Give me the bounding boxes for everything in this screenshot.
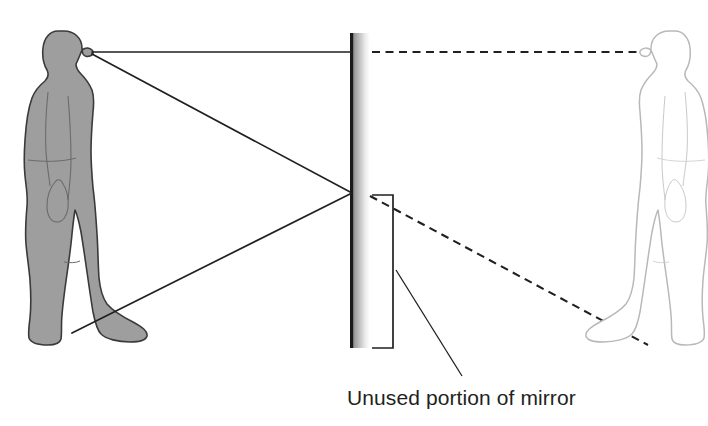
ray-foot-to-mirror-mid (72, 193, 352, 333)
optics-ray-diagram: Unused portion of mirror (0, 0, 708, 426)
mirror-reflective-surface (350, 33, 353, 348)
unused-portion-label: Unused portion of mirror (347, 386, 576, 409)
image-body-silhouette (586, 31, 708, 345)
annotation-leader-line (396, 270, 462, 376)
diagram-canvas: Unused portion of mirror (0, 0, 708, 426)
observer-figure (24, 31, 147, 345)
reflected-image-figure (586, 31, 708, 345)
observer-body-silhouette (24, 31, 147, 345)
mirror (350, 33, 370, 348)
bracket-outline (372, 195, 393, 348)
mirror-glass-body (353, 33, 370, 348)
incident-rays (72, 52, 352, 333)
ray-eye-to-mirror-mid (92, 54, 352, 193)
virtual-rays (370, 52, 648, 345)
unused-portion-bracket (372, 195, 393, 348)
